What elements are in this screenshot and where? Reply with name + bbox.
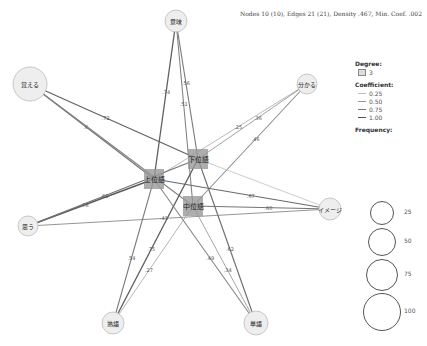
node-image[interactable]: イメージ [318, 198, 342, 220]
edge-oboeru-chuui [30, 84, 193, 206]
legend-coefficient-list: 0.250.500.751.00 [355, 89, 427, 121]
edges-layer: .72.6.74.56.51.25.36.46.78.61.41.67.60.5… [28, 21, 330, 323]
legend-frequency-label: 50 [404, 237, 412, 244]
node-omou[interactable]: 思う [18, 216, 38, 236]
node-label: 熟語 [107, 320, 119, 328]
node-tango[interactable]: 単語 [244, 311, 268, 335]
line-sample-icon [358, 109, 366, 110]
node-wakaru[interactable]: 分かる [297, 74, 317, 94]
node-label: 分かる [298, 81, 316, 89]
edge-omou-image [28, 209, 330, 226]
edge-tango-joui [154, 179, 256, 323]
legend-coefficient-row: 0.25 [355, 89, 427, 97]
node-label: 下位語 [188, 155, 209, 164]
edge-wakaru-joui [154, 84, 307, 179]
legend-frequency-label: 25 [404, 208, 412, 215]
edge-label: .61 [101, 193, 109, 199]
node-chuui[interactable]: 中位語 [183, 196, 204, 216]
legend-coefficient-row: 0.75 [355, 105, 427, 113]
frequency-circle-icon [366, 259, 398, 291]
edge-label: .34 [224, 267, 232, 273]
legend-frequency-title: Frequency: [355, 126, 427, 133]
node-label: 意味 [170, 18, 182, 26]
legend-degree-row: 3 [355, 68, 427, 76]
edge-omou-kai [28, 159, 198, 226]
edge-image-kai [198, 159, 330, 209]
edge-label: .74 [162, 89, 170, 95]
legend-degree-value: 3 [369, 69, 373, 76]
edge-label: .75 [147, 246, 155, 252]
legend-coefficient-label: 0.25 [369, 90, 382, 97]
edge-imi-joui [154, 21, 176, 179]
node-label: 思う [22, 223, 34, 231]
legend-coefficient-label: 1.00 [369, 114, 382, 121]
node-label: 単語 [250, 320, 262, 328]
legend-frequency-label: 75 [404, 270, 412, 277]
legend-degree-title: Degree: [355, 60, 427, 67]
node-joui[interactable]: 上位語 [144, 169, 165, 189]
edge-label: .49 [206, 255, 214, 261]
edge-label: .56 [182, 80, 190, 86]
edge-label: .60 [264, 205, 272, 211]
edge-wakaru-chuui [193, 84, 307, 206]
node-label: 上位語 [144, 175, 165, 184]
edge-wakaru-kai [198, 84, 307, 159]
edge-tango-chuui [193, 206, 256, 323]
legend-coefficient-row: 1.00 [355, 113, 427, 121]
edge-label: .62 [226, 246, 234, 252]
legend-coefficient-title: Coefficient: [355, 81, 427, 88]
edge-label: .54 [127, 255, 135, 261]
node-label: 覚える [21, 81, 39, 89]
edge-label: .72 [102, 115, 110, 121]
node-kai[interactable]: 下位語 [188, 149, 209, 169]
node-imi[interactable]: 意味 [165, 10, 187, 32]
edge-label: .36 [254, 115, 262, 121]
edge-label: .46 [252, 136, 260, 142]
line-sample-icon [358, 101, 366, 102]
edge-tango-kai [198, 159, 256, 323]
node-label: 中位語 [183, 202, 204, 211]
node-oboeru[interactable]: 覚える [13, 67, 47, 101]
legend-frequency-label: 100 [404, 307, 415, 314]
legend-coefficient-row: 0.50 [355, 97, 427, 105]
edge-label: .51 [180, 101, 188, 107]
co-occurrence-network: .72.6.74.56.51.25.36.46.78.61.41.67.60.5… [0, 0, 427, 346]
degree-square-icon [358, 69, 366, 76]
frequency-circle-icon [370, 201, 394, 225]
edge-jukugo-chuui [113, 206, 193, 323]
line-sample-icon [358, 93, 366, 94]
node-jukugo[interactable]: 熟語 [102, 312, 124, 334]
nodes-layer: 覚える意味分かる思うイメージ熟語単語上位語下位語中位語 [13, 10, 342, 335]
frequency-circle-icon [363, 293, 401, 331]
edge-label: .27 [145, 267, 153, 273]
edge-label: .25 [234, 124, 242, 130]
line-sample-icon [358, 117, 366, 118]
edge-image-chuui [193, 206, 330, 209]
node-label: イメージ [318, 206, 342, 213]
legend-coefficient-label: 0.75 [369, 106, 382, 113]
legend: Degree: 3 Coefficient: 0.250.500.751.00 … [355, 60, 427, 134]
edge-label: .67 [247, 193, 255, 199]
frequency-circle-icon [368, 228, 396, 256]
legend-coefficient-label: 0.50 [369, 98, 382, 105]
